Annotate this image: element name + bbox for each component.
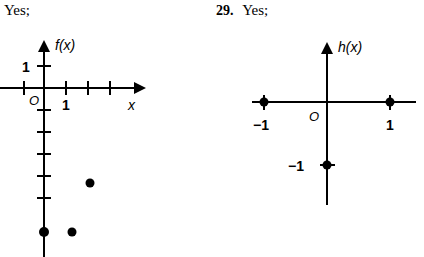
- data-point: [86, 179, 95, 188]
- graph-f-svg: f(x) x O 1 1: [0, 0, 160, 257]
- data-point: [323, 161, 332, 170]
- data-point: [260, 98, 269, 107]
- x-axis-arrowhead: [134, 82, 146, 94]
- f-of-x-label: f(x): [55, 37, 75, 53]
- graph-h-of-x: h(x) O −1 1 −1: [212, 0, 424, 257]
- data-point: [386, 98, 395, 107]
- graph-f-of-x: f(x) x O 1 1: [0, 0, 160, 257]
- origin-label: O: [29, 93, 39, 108]
- x-axis-label: x: [127, 97, 136, 113]
- x-tick-1-label: 1: [386, 117, 394, 133]
- x-tick-1-label: 1: [62, 97, 70, 113]
- y-tick-neg1-label: −1: [288, 158, 304, 174]
- data-point: [68, 228, 77, 237]
- graph-h-svg: h(x) O −1 1 −1: [212, 0, 424, 257]
- h-of-x-label: h(x): [338, 39, 362, 55]
- answer-key-figure-page: Yes; f(x) x O: [0, 0, 424, 257]
- y-axis-arrowhead: [38, 40, 50, 52]
- y-axis-arrowhead: [321, 42, 333, 54]
- origin-label: O: [309, 109, 319, 124]
- x-tick-neg1-label: −1: [253, 117, 269, 133]
- data-point: [39, 227, 49, 237]
- y-tick-1-label: 1: [22, 59, 30, 75]
